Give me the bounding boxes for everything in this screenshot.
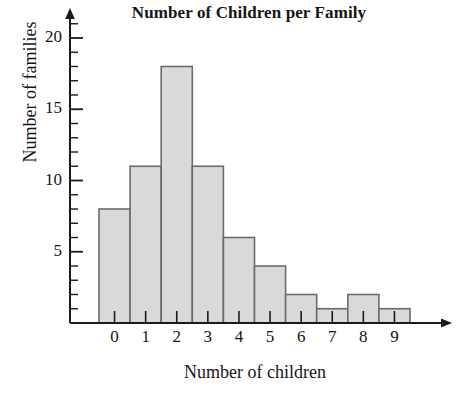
y-axis-label-wrapper: Number of families [20,0,44,207]
bar-4 [223,238,254,324]
x-tick-label-8: 8 [347,327,379,347]
x-axis-label: Number of children [60,362,450,383]
y-tick-label-5: 5 [28,241,62,261]
y-axis [65,8,75,323]
bar-2 [161,67,192,324]
chart-figure: Number of Children per Family 5101520 01… [0,0,458,405]
x-tick-label-2: 2 [161,327,193,347]
bar-1 [130,166,161,323]
x-tick-label-6: 6 [285,327,317,347]
x-tick-label-9: 9 [378,327,410,347]
x-tick-label-1: 1 [130,327,162,347]
bar-0 [99,209,130,323]
y-tick-marks [70,24,83,309]
bars-group [99,67,410,324]
x-tick-label-7: 7 [316,327,348,347]
y-axis-label: Number of families [20,0,41,207]
x-tick-label-3: 3 [192,327,224,347]
x-tick-label-5: 5 [254,327,286,347]
x-tick-label-4: 4 [223,327,255,347]
bar-3 [192,166,223,323]
x-tick-label-0: 0 [99,327,131,347]
